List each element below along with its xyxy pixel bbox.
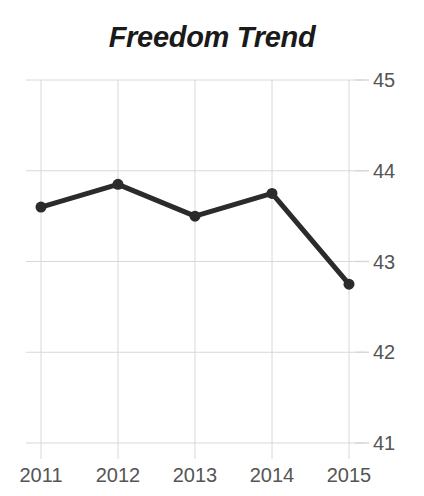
y-axis-tick-label: 43 <box>373 250 395 273</box>
data-point-marker-2015 <box>344 279 355 290</box>
chart-canvas <box>0 0 424 496</box>
y-axis-tick-label: 41 <box>373 432 395 455</box>
axis-tick-marks <box>355 80 369 443</box>
x-axis-tick-label: 2014 <box>250 464 295 487</box>
data-point-marker-2012 <box>113 179 124 190</box>
data-point-marker-2014 <box>267 188 278 199</box>
freedom-trend-chart: Freedom Trend 4544434241 201120122013201… <box>0 0 424 496</box>
data-point-marker-2011 <box>36 202 47 213</box>
x-axis-tick-label: 2013 <box>173 464 218 487</box>
x-axis-tick-label: 2012 <box>96 464 141 487</box>
x-axis-tick-label: 2015 <box>327 464 372 487</box>
data-point-marker-2013 <box>190 211 201 222</box>
plot-area <box>0 0 424 496</box>
y-axis-tick-label: 42 <box>373 341 395 364</box>
x-axis-tick-label: 2011 <box>19 464 62 487</box>
y-axis-tick-label: 45 <box>373 69 395 92</box>
y-axis-tick-label: 44 <box>373 159 395 182</box>
vertical-gridlines <box>41 80 349 459</box>
